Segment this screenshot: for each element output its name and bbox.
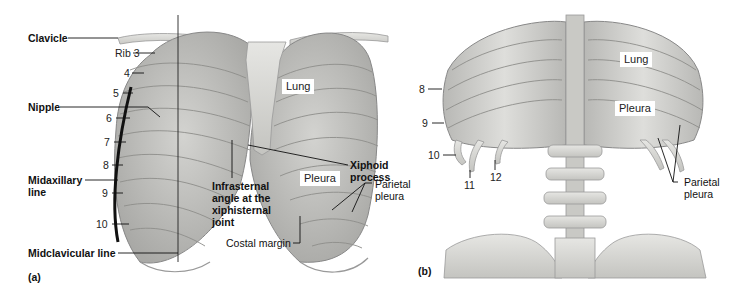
rib-3-label: Rib 3 — [115, 47, 140, 59]
parietal-pleura-label-b: Parietal pleura — [684, 176, 720, 200]
midaxillary-line-label-2: line — [28, 186, 46, 198]
parietal-label-b-2: pleura — [684, 188, 713, 200]
infrasternal-label-4: joint — [212, 216, 234, 228]
infrasternal-angle-label: Infrasternal angle at the xiphisternal j… — [212, 180, 271, 228]
rib-9-label-b: 9 — [422, 117, 428, 129]
rib-11-label-b: 11 — [464, 179, 475, 191]
parietal-label-a-2: pleura — [375, 190, 404, 202]
rib-8-label: 8 — [103, 159, 109, 171]
nipple-label: Nipple — [28, 101, 60, 113]
rib-10-label: 10 — [96, 218, 108, 230]
pleura-label-b: Pleura — [615, 101, 655, 116]
xiphoid-label-1: Xiphoid — [350, 159, 389, 171]
pleura-label-a: Pleura — [300, 171, 340, 186]
lung-label-b: Lung — [620, 52, 652, 67]
clavicle-label: Clavicle — [28, 32, 68, 44]
infrasternal-label-3: xiphisternal — [212, 204, 271, 216]
anatomy-figure: Clavicle Rib 3 4 5 Nipple 6 7 8 Midaxill… — [0, 0, 749, 297]
parietal-label-a-1: Parietal — [375, 178, 411, 190]
infrasternal-label-1: Infrasternal — [212, 180, 269, 192]
costal-margin-label: Costal margin — [226, 237, 291, 249]
posterior-thorax — [428, 15, 706, 278]
rib-7-label: 7 — [104, 136, 110, 148]
rib-12-label-b: 12 — [490, 171, 502, 183]
lung-label-a: Lung — [282, 79, 314, 94]
panel-b-label: (b) — [418, 265, 431, 277]
rib-8-label-b: 8 — [419, 83, 425, 95]
rib-6-label: 6 — [106, 112, 112, 124]
rib-9-label: 9 — [102, 187, 108, 199]
midclavicular-line-label: Midclavicular line — [28, 247, 116, 259]
rib-5-label: 5 — [113, 87, 119, 99]
rib-4-label: 4 — [124, 67, 130, 79]
rib-10-label-b: 10 — [428, 149, 440, 161]
panel-a-label: (a) — [28, 271, 41, 283]
parietal-pleura-label-a: Parietal pleura — [375, 178, 411, 202]
infrasternal-label-2: angle at the — [212, 192, 270, 204]
parietal-label-b-1: Parietal — [684, 176, 720, 188]
midaxillary-line-label: Midaxillary line — [28, 174, 82, 198]
midaxillary-line-label-1: Midaxillary — [28, 174, 82, 186]
